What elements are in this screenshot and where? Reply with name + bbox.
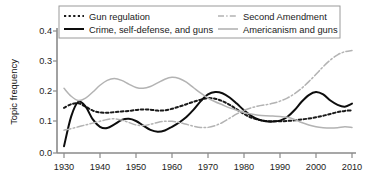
y-axis-title: Topic frequency	[8, 59, 19, 125]
y-tick-label: 0.2	[39, 86, 52, 96]
x-tick-label: 1950	[126, 162, 146, 172]
y-tick-label: 0.0	[39, 148, 52, 158]
x-tick-label: 1930	[54, 162, 74, 172]
x-tick-label: 1960	[162, 162, 182, 172]
chart-legend: Gun regulation Crime, self-defense, and …	[59, 6, 340, 38]
y-tick-label: 0.4	[39, 26, 52, 36]
legend-label: Americanism and guns	[243, 25, 338, 35]
y-tick-label: 0.3	[39, 56, 52, 66]
x-tick-label: 1980	[234, 162, 254, 172]
x-tick-label: 1940	[90, 162, 110, 172]
x-tick-label: 1990	[270, 162, 290, 172]
x-tick-label: 2010	[342, 162, 362, 172]
legend-label: Crime, self-defense, and guns	[89, 25, 213, 35]
x-tick-label: 1970	[198, 162, 218, 172]
x-tick-label: 2000	[306, 162, 326, 172]
chart-figure: Topic frequency 0.4 0.3 0.2 0.1 0.0	[0, 0, 372, 185]
y-tick-label: 0.1	[39, 116, 52, 126]
legend-label: Gun regulation	[89, 12, 150, 22]
legend-label: Second Amendment	[243, 12, 327, 22]
topic-frequency-line-chart: Topic frequency 0.4 0.3 0.2 0.1 0.0	[0, 0, 372, 185]
x-tick-labels: 1930 1940 1950 1960 1970 1980 1990 2000 …	[54, 162, 362, 172]
